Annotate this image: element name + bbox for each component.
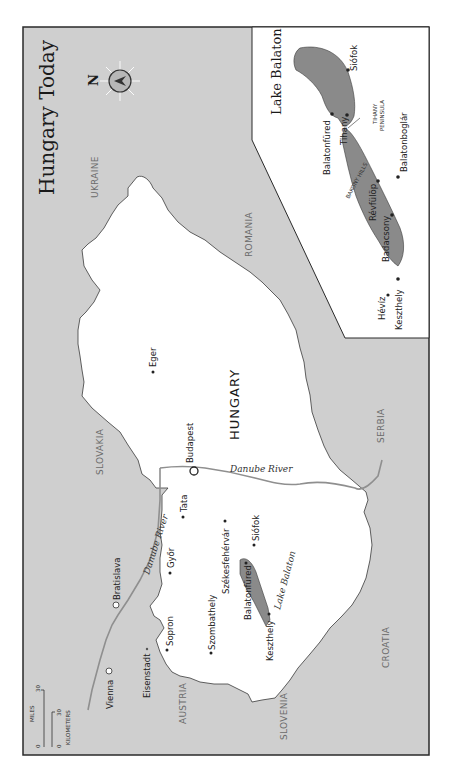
svg-text:0: 0 (56, 744, 62, 748)
svg-text:Eisenstadt: Eisenstadt (142, 653, 152, 698)
label-serbia: SERBIA (376, 408, 386, 443)
label-romania: ROMANIA (244, 212, 254, 257)
svg-text:Balatonboglár: Balatonboglár (399, 112, 409, 172)
svg-text:Budapest: Budapest (185, 422, 195, 463)
svg-text:KILOMETERS: KILOMETERS (65, 710, 71, 745)
label-hungary: HUNGARY (227, 369, 242, 440)
svg-text:MILES: MILES (29, 705, 35, 722)
city-bratislava: Bratislava (112, 558, 122, 608)
svg-text:30: 30 (35, 685, 41, 692)
svg-text:Révfülöp: Révfülöp (368, 184, 378, 221)
inset-siofok: Siófok (346, 45, 359, 72)
compass-north-label: N (86, 74, 101, 86)
hungary-map: Hungary Today N UKRAINE ROMANIA SLOVAKIA… (0, 0, 451, 778)
svg-text:Székesfehérvár: Székesfehérvár (221, 528, 231, 594)
label-austria: AUSTRIA (178, 682, 188, 724)
svg-text:30: 30 (56, 709, 62, 716)
svg-text:Keszthely: Keszthely (265, 620, 275, 661)
label-ukraine: UKRAINE (90, 156, 100, 198)
svg-text:Balatonfüred: Balatonfüred (243, 565, 253, 620)
compass-rose-icon (100, 61, 140, 101)
svg-text:Sopron: Sopron (165, 616, 175, 646)
svg-text:Keszthely: Keszthely (394, 289, 404, 330)
city-sopron: Sopron (165, 616, 175, 651)
svg-text:0: 0 (35, 744, 41, 748)
inset-balatonboglar: Balatonboglár (396, 112, 409, 179)
city-siofok: Siófok (251, 515, 261, 547)
svg-text:Győr: Győr (166, 547, 176, 568)
svg-text:Badacsony: Badacsony (381, 216, 391, 262)
svg-text:Vienna: Vienna (105, 680, 115, 709)
label-danube-main: Danube River (229, 464, 293, 474)
city-szombathely: Szombathely (207, 595, 217, 655)
svg-text:Hévíz: Hévíz (377, 296, 387, 320)
label-slovakia: SLOVAKIA (95, 428, 105, 475)
svg-text:Szombathely: Szombathely (207, 595, 217, 650)
inset-title: Lake Balaton (269, 28, 284, 115)
inset-tihany-peninsula: TIHANY (372, 103, 378, 125)
inset-tihany: Tihany (339, 113, 349, 146)
label-slovenia: SLOVENIA (279, 692, 289, 740)
svg-text:Bratislava: Bratislava (112, 558, 122, 600)
inset-tihany-peninsula-2: PENINSULA (379, 100, 385, 131)
svg-text:Tata: Tata (179, 494, 189, 513)
map-title: Hungary Today (35, 39, 59, 195)
city-balatonfured: Balatonfüred (243, 562, 253, 621)
city-eisenstadt: Eisenstadt (142, 648, 152, 698)
svg-text:Siófok: Siófok (349, 45, 359, 71)
svg-text:Eger: Eger (148, 347, 158, 367)
svg-text:Tihany: Tihany (339, 117, 349, 146)
city-szekesfehervar: Székesfehérvár (221, 520, 231, 595)
svg-text:Balatonfüred: Balatonfüred (322, 120, 332, 175)
label-croatia: CROATIA (381, 626, 391, 668)
svg-text:Siófok: Siófok (251, 515, 261, 541)
